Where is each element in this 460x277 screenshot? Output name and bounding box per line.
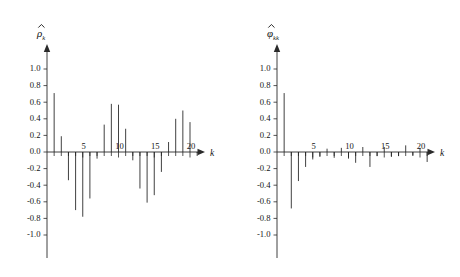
y-axis-arrow (274, 44, 280, 52)
pacf-plot: 1.00.80.60.40.20.0-0.2-0.4-0.6-0.8-1.051… (230, 0, 460, 277)
x-axis-arrow (198, 149, 206, 155)
acf-pacf-figure: 1.00.80.60.40.20.0-0.2-0.4-0.6-0.8-1.051… (0, 0, 460, 277)
y-tick-label: 0.4 (260, 113, 271, 123)
x-tick-label: 10 (345, 141, 354, 151)
pacf-panel: 1.00.80.60.40.20.0-0.2-0.4-0.6-0.8-1.051… (230, 0, 460, 277)
y-tick-label: -0.6 (27, 196, 41, 206)
y-tick-label: -0.4 (257, 180, 271, 190)
y-tick-label: -0.4 (27, 180, 41, 190)
y-tick-label: 1.0 (260, 63, 271, 73)
y-tick-label: 0.8 (30, 80, 41, 90)
x-tick-label: 5 (82, 141, 86, 151)
x-axis-label: k (210, 148, 215, 158)
y-tick-label: 0.4 (30, 113, 41, 123)
x-tick-label: 10 (115, 141, 124, 151)
y-tick-label: -0.6 (257, 196, 271, 206)
y-tick-label: 0.0 (260, 146, 271, 156)
y-tick-label: 0.2 (260, 130, 271, 140)
y-tick-label: 0.0 (30, 146, 41, 156)
y-tick-label: -0.8 (257, 213, 271, 223)
y-axis-arrow (44, 44, 50, 52)
y-tick-label: -0.2 (27, 163, 41, 173)
x-axis-label: k (440, 148, 445, 158)
y-tick-label: -1.0 (27, 229, 41, 239)
y-axis-label: ρk (36, 27, 46, 41)
y-axis-label: φkk (267, 27, 280, 41)
x-tick-label: 15 (381, 141, 390, 151)
x-axis-arrow (428, 149, 436, 155)
x-tick-label: 20 (417, 141, 426, 151)
x-tick-label: 20 (187, 141, 196, 151)
y-tick-label: 0.8 (260, 80, 271, 90)
acf-plot: 1.00.80.60.40.20.0-0.2-0.4-0.6-0.8-1.051… (0, 0, 230, 277)
y-tick-label: 0.6 (30, 97, 41, 107)
y-tick-label: 1.0 (30, 63, 41, 73)
y-tick-label: -0.8 (27, 213, 41, 223)
y-tick-label: 0.6 (260, 97, 271, 107)
y-tick-label: 0.2 (30, 130, 41, 140)
y-tick-label: -1.0 (257, 229, 271, 239)
y-tick-label: -0.2 (257, 163, 271, 173)
acf-panel: 1.00.80.60.40.20.0-0.2-0.4-0.6-0.8-1.051… (0, 0, 230, 277)
x-tick-label: 5 (312, 141, 316, 151)
x-tick-label: 15 (151, 141, 160, 151)
